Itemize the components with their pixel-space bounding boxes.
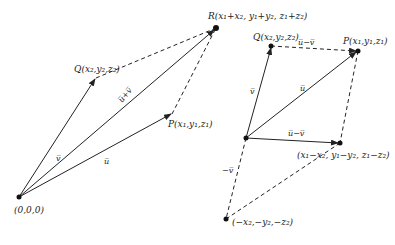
vector-v-label: v̅ [56,154,61,163]
point-q-label: Q(x₂,y₂,z₂) [74,64,120,74]
point-q-right [269,44,274,49]
vector-u-label: u̅ [104,157,109,166]
origin-label: (0,0,0) [14,205,44,215]
point-p-right-label: P(x₁,y₁,z₁) [342,36,388,46]
vector-u-minus-v-top-label: u̅−v̅ [298,38,315,47]
point-d-label: (x₁−x₂, y₁−y₂, z₁−z₂) [297,150,390,160]
vector-u-line [19,114,171,197]
dashed-p-to-d [340,51,358,143]
point-r-label: R(x₁+x₂, y₁+y₂, z₁+z₂) [207,11,308,21]
vector-u-line-right [246,52,356,138]
origin-point [17,195,22,200]
point-q-right-label: Q(x₂,y₂,z₂) [253,32,299,42]
vector-v-line [19,79,95,197]
point-d [338,141,343,146]
vector-u-minus-v-label: u̅−v̅ [288,129,305,138]
dashed-neg-v [226,138,246,219]
vector-u-plus-v-line [19,30,214,197]
vector-u-right-label: u̅ [300,84,305,93]
vector-u-plus-v-label: u̅+v̅ [117,86,135,105]
origin-point-right [244,136,249,141]
point-neg-v [224,217,229,222]
dashed-p-to-r [172,28,216,114]
vector-diagram: (0,0,0) P(x₁,y₁,z₁) Q(x₂,y₂,z₂) R(x₁+x₂,… [0,0,395,245]
vector-u-minus-v-line [246,138,338,143]
point-p-right [356,49,361,54]
point-p-label: P(x₁,y₁,z₁) [167,119,213,129]
right-diagram-vector-difference: Q(x₂,y₂,z₂) P(x₁,y₁,z₁) u̅−v̅ v̅ u̅ u̅−v… [222,32,390,227]
point-neg-v-label: (−x₂,−y₂,−z₂) [232,217,294,227]
vector-v-right-label: v̅ [250,87,255,96]
point-r [213,25,219,31]
vector-neg-v-label: −v̅ [222,166,234,175]
